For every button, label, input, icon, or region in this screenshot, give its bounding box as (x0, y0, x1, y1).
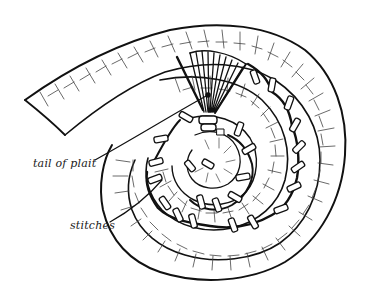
label-tail-of-plait: tail of plait (33, 157, 96, 170)
plait-coil-illustration (0, 0, 365, 296)
centre-coil (187, 132, 240, 189)
coil-drawing (0, 0, 365, 296)
label-stitches: stitches (70, 219, 115, 232)
